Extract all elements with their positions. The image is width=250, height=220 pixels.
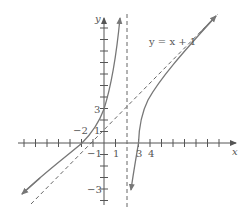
graph-figure: y x y = x + 1 −2 1 3 −1 1 3 4 −3	[0, 0, 250, 220]
y-tick-1-label: 1	[94, 125, 100, 136]
y-tick-3-label: 3	[94, 104, 100, 115]
left-branch-curve	[22, 18, 120, 194]
y-axis	[100, 18, 108, 205]
x-tick-1-label: 1	[113, 148, 119, 159]
x-intercept-neg2-label: −2	[73, 125, 88, 136]
y-axis-label: y	[94, 13, 101, 24]
x-tick-3-label: 3	[136, 148, 142, 159]
asymptote-equation-label: y = x + 1	[148, 36, 196, 47]
graph-canvas: y x y = x + 1 −2 1 3 −1 1 3 4 −3	[0, 0, 250, 220]
x-tick-neg1-label: −1	[87, 148, 102, 159]
x-axis-label: x	[232, 146, 238, 157]
y-tick-neg3-label: −3	[87, 184, 102, 195]
x-tick-4-label: 4	[148, 148, 154, 159]
